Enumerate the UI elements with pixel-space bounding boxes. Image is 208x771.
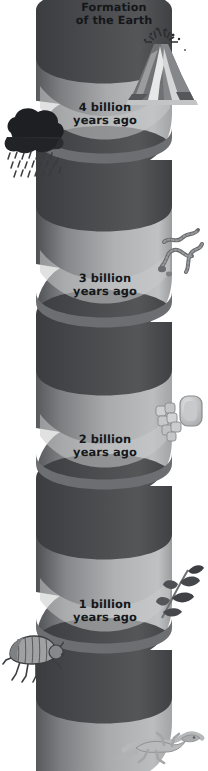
label-formation-of-the-earth: Formation of the Earth xyxy=(71,2,157,27)
label-3-billion-years-ago: 3 billion years ago xyxy=(59,272,151,298)
label-1-billion-years-ago: 1 billion years ago xyxy=(59,598,151,624)
timeline-spiral-figure: Formation of the Earth 4 billion years a… xyxy=(0,0,208,771)
label-2-billion-years-ago: 2 billion years ago xyxy=(59,433,151,459)
label-4-billion-years-ago: 4 billion years ago xyxy=(59,101,151,127)
